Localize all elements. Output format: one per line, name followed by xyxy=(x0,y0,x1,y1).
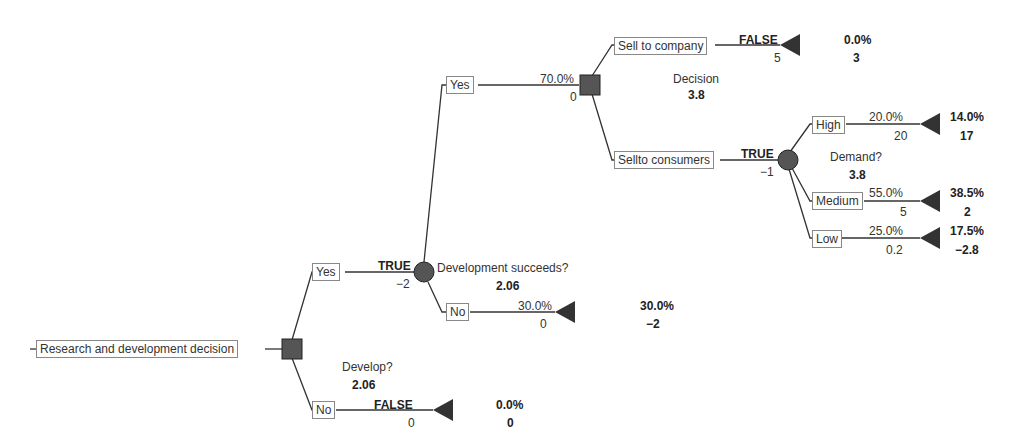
chance-node-dev-success xyxy=(414,262,434,282)
terminal-high xyxy=(920,113,940,135)
develop-node-value: 2.06 xyxy=(352,378,375,392)
root-label[interactable]: Research and development decision xyxy=(36,340,238,358)
success-yes-prob: 70.0% xyxy=(540,72,574,86)
low-final-prob: 17.5% xyxy=(950,224,984,238)
success-yes-value: 0 xyxy=(570,90,577,104)
sell-consumers-flag: TRUE xyxy=(741,147,774,161)
sell-company-value: 5 xyxy=(774,51,781,65)
develop-no-prob: 0.0% xyxy=(496,398,523,412)
high-value: 20 xyxy=(894,129,907,143)
medium-payoff: 2 xyxy=(964,205,971,219)
terminal-low xyxy=(920,227,940,249)
branch-develop-yes[interactable]: Yes xyxy=(312,263,340,281)
branch-success-yes[interactable]: Yes xyxy=(446,76,474,94)
decision-node-develop xyxy=(282,339,302,359)
dev-success-name: Development succeeds? xyxy=(437,261,568,275)
decision-node-decision xyxy=(580,75,600,95)
develop-no-value: 0 xyxy=(408,416,415,430)
success-no-payoff: −2 xyxy=(646,317,660,331)
branch-sell-company[interactable]: Sell to company xyxy=(614,37,707,55)
develop-no-flag: FALSE xyxy=(374,398,413,412)
chance-node-demand xyxy=(778,150,798,170)
demand-node-name: Demand? xyxy=(830,150,882,164)
branch-high[interactable]: High xyxy=(812,116,845,134)
sell-company-flag: FALSE xyxy=(739,33,778,47)
branch-develop-no[interactable]: No xyxy=(312,401,335,419)
high-final-prob: 14.0% xyxy=(950,110,984,124)
medium-final-prob: 38.5% xyxy=(950,186,984,200)
low-prob: 25.0% xyxy=(869,224,903,238)
terminal-dev-fail xyxy=(555,301,575,323)
low-payoff: −2.8 xyxy=(955,243,979,257)
demand-node-value: 3.8 xyxy=(849,168,866,182)
high-prob: 20.0% xyxy=(869,110,903,124)
medium-prob: 55.0% xyxy=(869,186,903,200)
low-value: 0.2 xyxy=(886,243,903,257)
decision-node-name: Decision xyxy=(673,72,719,86)
branch-success-no[interactable]: No xyxy=(446,303,469,321)
medium-value: 5 xyxy=(900,205,907,219)
branch-sell-consumers[interactable]: Sellto consumers xyxy=(614,151,714,169)
sell-consumers-value: −1 xyxy=(760,165,774,179)
branch-medium[interactable]: Medium xyxy=(812,192,863,210)
terminal-develop-no xyxy=(433,399,453,421)
dev-success-value: 2.06 xyxy=(496,279,519,293)
success-no-value: 0 xyxy=(540,317,547,331)
terminal-sell-company xyxy=(780,34,800,56)
tree-lines xyxy=(0,0,1014,431)
sell-company-final-prob: 0.0% xyxy=(844,33,871,47)
develop-no-payoff: 0 xyxy=(507,416,514,430)
sell-company-payoff: 3 xyxy=(853,51,860,65)
success-no-final-prob: 30.0% xyxy=(640,299,674,313)
branch-low[interactable]: Low xyxy=(812,230,842,248)
develop-yes-flag: TRUE xyxy=(378,259,411,273)
high-payoff: 17 xyxy=(960,129,973,143)
develop-yes-cost: −2 xyxy=(396,277,410,291)
decision-node-value: 3.8 xyxy=(688,88,705,102)
success-no-prob: 30.0% xyxy=(518,299,552,313)
terminal-medium xyxy=(920,190,940,212)
develop-node-name: Develop? xyxy=(342,360,393,374)
